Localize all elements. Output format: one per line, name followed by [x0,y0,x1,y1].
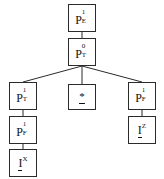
node-label: P1E [75,10,89,26]
tree-node-iz: IZ [128,116,156,144]
node-label: P1F [135,88,149,104]
parse-tree-diagram: P1E P0T P1T * P1F P1F IZ IX [0,0,164,179]
tree-node-ix: IX [9,149,37,177]
node-label: P1F [16,122,30,138]
node-base-letter: P [135,91,142,105]
tree-node-root: P1E [68,4,96,32]
node-script-stack: 1F [23,122,30,136]
tree-node-star: * [68,84,96,110]
node-script-stack: 0T [82,44,89,58]
node-script-stack: 1F [142,88,149,102]
node-base-letter: P [16,91,23,105]
node-base-letter: P [75,47,82,61]
node-subscript: F [142,96,146,103]
tree-node-pt1: P1T [9,82,37,110]
node-superscript: X [22,155,27,163]
tree-edge [23,66,82,82]
node-superscript: 1 [82,9,86,16]
tree-edge [82,66,142,82]
node-superscript: 1 [23,121,27,128]
tree-node-pf1-right: P1F [128,82,156,110]
asterisk-glyph: * [79,91,85,104]
node-label: IX [18,157,27,169]
node-superscript: 0 [82,43,86,50]
node-label: P0T [75,44,89,60]
node-superscript: 1 [23,87,27,94]
node-script-stack: 1E [82,10,89,24]
tree-node-pf1-left: P1F [9,116,37,144]
node-label: * [79,90,85,104]
node-superscript: Z [142,122,146,130]
node-subscript: F [23,130,27,137]
node-superscript: 1 [142,87,146,94]
node-subscript: T [82,52,86,59]
tree-node-pt0: P0T [68,38,96,66]
node-label: P1T [16,88,30,104]
node-subscript: T [23,96,27,103]
node-label: IZ [138,124,146,136]
node-base-letter: P [16,125,23,139]
node-script-stack: 1T [23,88,30,102]
node-subscript: E [82,18,86,25]
node-base-letter: P [75,13,82,27]
